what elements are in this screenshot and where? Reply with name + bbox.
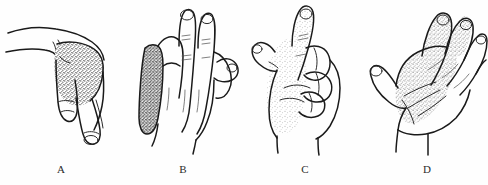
panel-b-illustration [122,0,244,160]
panel-d-label: D [366,163,488,175]
panel-d-illustration [366,0,488,160]
little-finger-joint [309,93,312,112]
panel-d: D [366,0,488,185]
panel-c-label: C [244,163,366,175]
middle-finger-crease [84,132,99,134]
tendon-line-3 [167,88,169,110]
middle-finger-joint [314,48,317,70]
wrist-radial-line [277,136,278,153]
wrist-radial-line [193,140,196,154]
panel-a: A [0,0,122,185]
panel-b: B [122,0,244,185]
panel-a-illustration [0,0,122,160]
index-fingernail-line [61,111,74,113]
thumbnail [370,66,382,76]
ring-base-crease [454,74,469,88]
wrist-ulnar-line [318,138,319,155]
tendon-line-1 [183,90,185,112]
panel-c-illustration [244,0,366,160]
tendon-line-2 [197,90,199,112]
index-finger-outline [197,13,215,134]
thumbnail [252,45,262,53]
panel-a-label: A [0,163,122,175]
dorsum-stipple-shading [50,38,110,112]
middle-finger-knuckle-1 [182,35,190,36]
index-finger-knuckle-1 [202,39,210,40]
middle-finger-outline [179,10,196,132]
middle-finger-knuckle-2 [182,39,190,40]
forearm-ventral-line [6,49,58,58]
little-finger-outline [476,60,486,74]
ring-finger-crease [163,63,180,66]
hand-deformity-figure: A [0,0,488,185]
index-fingernail [201,14,213,23]
panel-b-label: B [122,163,244,175]
ring-finger-joint [316,73,319,95]
ring-fingernail [476,36,486,44]
index-finger-knuckle-2 [202,43,210,44]
panel-c: C [244,0,366,185]
wrist-radial-line [396,130,398,152]
index-finger-knuckle-3 [202,57,210,58]
